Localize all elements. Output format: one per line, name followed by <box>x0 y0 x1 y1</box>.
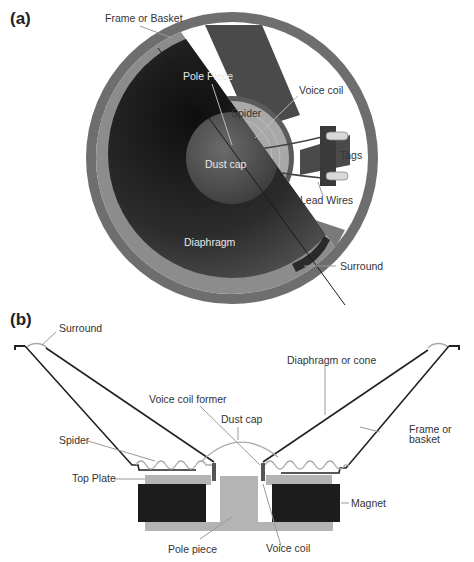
panel-b: (b) <box>10 310 459 555</box>
terminal-tab-bottom <box>326 172 348 180</box>
label-surround: Surround <box>340 260 383 272</box>
spider-left <box>136 461 214 469</box>
label-b-frame-line2: basket <box>409 433 440 445</box>
label-tags: Tags <box>340 149 362 161</box>
leader-b-spider <box>88 441 155 461</box>
label-frame-or-basket: Frame or Basket <box>105 12 183 24</box>
loudspeaker-diagram: (a) <box>0 0 474 562</box>
panel-b-tag: (b) <box>10 310 32 329</box>
voice-coil-left <box>212 463 216 481</box>
leader-b-surround <box>42 332 56 345</box>
leader-b-frame <box>360 427 380 432</box>
label-voice-coil: Voice coil <box>299 84 343 96</box>
label-b-dust-cap: Dust cap <box>221 413 263 425</box>
label-b-magnet: Magnet <box>351 497 386 509</box>
label-b-surround: Surround <box>59 322 102 334</box>
top-plate-right <box>266 475 332 485</box>
magnet-right <box>272 484 340 522</box>
label-b-pole-piece: Pole piece <box>168 543 217 555</box>
label-b-top-plate: Top Plate <box>72 472 116 484</box>
panel-a-tag: (a) <box>10 9 31 28</box>
cone-right <box>263 350 428 462</box>
top-plate-left <box>145 475 211 485</box>
surround-left <box>27 343 47 348</box>
label-dust-cap: Dust cap <box>205 158 247 170</box>
panel-a: (a) <box>10 9 383 305</box>
label-diaphragm: Diaphragm <box>184 236 236 248</box>
label-b-voice-coil: Voice coil <box>266 542 310 554</box>
label-pole-piece: Pole Piece <box>183 70 233 82</box>
magnet-left <box>138 484 206 522</box>
label-spider: Spider <box>231 107 262 119</box>
pole-piece <box>220 476 258 526</box>
voice-coil-right <box>261 463 265 481</box>
basket-left <box>25 346 196 470</box>
spider-right <box>265 461 349 469</box>
surround-right <box>428 343 448 348</box>
frame-rim-left <box>15 346 25 350</box>
frame-rim-right <box>449 346 459 350</box>
label-b-voice-coil-former: Voice coil former <box>149 393 227 405</box>
terminal-tab-top <box>326 132 348 140</box>
label-lead-wires: Lead Wires <box>300 194 353 206</box>
label-b-diaphragm: Diaphragm or cone <box>287 354 376 366</box>
label-b-spider: Spider <box>59 434 90 446</box>
